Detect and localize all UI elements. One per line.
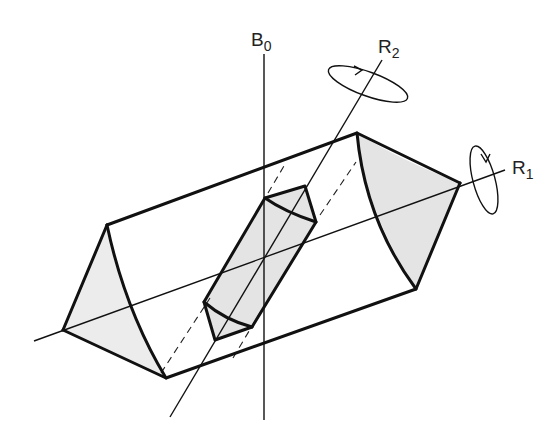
hidden-edge-top-left (268, 166, 284, 193)
r2-axis (170, 60, 382, 417)
r1-label-sub: 1 (526, 166, 534, 182)
b0-label-main: B (251, 29, 264, 50)
r1-rotation-ellipse (464, 143, 503, 216)
spinning-diagram (0, 0, 556, 447)
b0-label-sub: 0 (264, 38, 272, 54)
r1-label-main: R (512, 157, 526, 178)
r2-label-sub: 2 (392, 45, 400, 61)
b0-label: B0 (251, 30, 271, 53)
hidden-edge-top-right (320, 162, 356, 215)
r2-rotation-arrowhead (354, 66, 362, 75)
r1-label: R1 (512, 158, 534, 181)
r2-label-main: R (378, 36, 392, 57)
r2-label: R2 (378, 37, 400, 60)
